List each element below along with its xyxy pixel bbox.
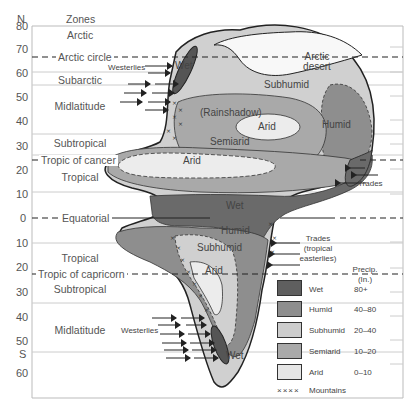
svg-text:×: × (198, 292, 203, 299)
region-arid-s: Arid (205, 266, 223, 276)
legend-label-arid: Arid (309, 369, 323, 377)
region-rainshadow: (Rainshadow) (200, 108, 262, 118)
legend-swatch-subhumid (277, 322, 302, 338)
tick-s50: 50 (16, 336, 28, 347)
tick-0: 0 (20, 213, 26, 224)
tick-s40: 40 (16, 312, 28, 323)
trades-s-label-3: easterlies) (300, 255, 337, 263)
region-arid-n-inner: Arid (258, 122, 276, 132)
legend-label-humid: Humid (309, 306, 332, 314)
region-wet-nw: Wet (175, 61, 193, 71)
svg-text:×: × (272, 234, 277, 241)
legend-header-1: Precip. (353, 266, 378, 274)
westerlies-n-label: Westerlies (108, 64, 145, 72)
trades-s-label-2: (tropical (304, 245, 332, 253)
region-subhumid-n: Subhumid (264, 80, 309, 90)
tropic-cancer-label: Tropic of cancer (39, 155, 118, 166)
legend-swatch-arid (277, 364, 302, 380)
legend-label-wet: Wet (309, 286, 323, 294)
tick-10: 10 (16, 189, 28, 200)
tick-60: 60 (16, 68, 28, 79)
region-arid-n-large: Arid (183, 156, 201, 166)
tick-50: 50 (16, 92, 28, 103)
region-wet-sw: Wet (226, 351, 244, 361)
zone-subtropical-s: Subtropical (54, 284, 107, 295)
legend-swatch-semiarid (277, 343, 302, 359)
region-semiarid-n: Semiarid (210, 137, 249, 147)
tick-s20: 20 (16, 262, 28, 273)
tick-80: 80 (16, 21, 28, 32)
svg-text:×: × (172, 99, 177, 106)
zone-arctic: Arctic (67, 30, 93, 41)
tick-s60: 60 (16, 368, 28, 379)
legend-range-arid: 0–10 (354, 369, 372, 377)
region-humid-s: Humid (221, 226, 250, 236)
legend-range-semiarid: 10–20 (354, 348, 376, 356)
region-wet-eq: Wet (226, 201, 244, 211)
tick-s30: 30 (16, 287, 28, 298)
trades-n-label: Trades (358, 180, 383, 188)
trades-s-label-1: Trades (306, 235, 331, 243)
legend-swatch-humid (277, 301, 302, 317)
arctic-circle-label: Arctic circle (56, 52, 114, 63)
svg-text:×: × (268, 220, 273, 227)
legend-label-semiarid: Semiarid (309, 348, 341, 356)
zone-subarctic: Subarctic (58, 75, 102, 86)
svg-text:×: × (176, 244, 181, 251)
tropic-capricorn-label: Tropic of capricorn (36, 269, 127, 280)
svg-text:×: × (178, 120, 183, 127)
axis-south-label: S (19, 349, 26, 360)
svg-text:×: × (172, 113, 177, 120)
legend-swatch-wet (277, 280, 302, 296)
zone-midlatitude-n: Midlatitude (55, 101, 106, 112)
region-arctic-desert-2: desert (303, 62, 331, 72)
tick-20: 20 (16, 165, 28, 176)
tick-30: 30 (16, 141, 28, 152)
svg-text:×: × (180, 256, 185, 263)
svg-text:×: × (172, 134, 177, 141)
zone-tropical-s: Tropical (62, 253, 99, 264)
svg-text:×: × (204, 306, 209, 313)
svg-text:×: × (178, 106, 183, 113)
legend-header-2: (In.) (358, 276, 372, 284)
svg-text:×: × (166, 127, 171, 134)
svg-text:×: × (192, 280, 197, 287)
tick-70: 70 (16, 44, 28, 55)
legend-range-humid: 40–80 (354, 306, 376, 314)
region-subhumid-s: Subhumid (197, 243, 242, 253)
zone-subtropical-n: Subtropical (54, 138, 107, 149)
climate-zones-diagram: ×××× ×× ×××× ××× ××× (0, 0, 420, 402)
westerlies-s-label: Westerlies (121, 327, 158, 335)
svg-text:×: × (170, 234, 175, 241)
zone-tropical-n: Tropical (62, 172, 99, 183)
legend-label-subhumid: Subhumid (309, 327, 345, 335)
zone-midlatitude-s: Midlatitude (55, 325, 106, 336)
zones-header: Zones (66, 14, 95, 25)
region-humid-n: Humid (322, 120, 351, 130)
mountains-symbol: ×××× (277, 387, 300, 395)
legend-range-subhumid: 20–40 (354, 327, 376, 335)
legend-label-mountains: Mountains (309, 387, 346, 395)
tick-s10: 10 (16, 238, 28, 249)
tick-40: 40 (16, 116, 28, 127)
legend-range-wet: 80+ (354, 286, 368, 294)
equatorial-label: Equatorial (60, 213, 111, 224)
